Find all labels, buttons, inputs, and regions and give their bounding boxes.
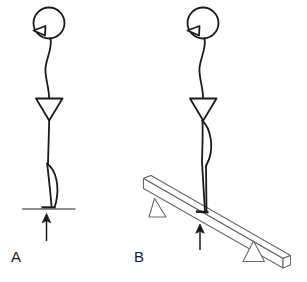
panel-a-figure	[22, 8, 76, 242]
panel-label-a: A	[11, 249, 21, 264]
head-circle-b	[188, 8, 219, 39]
torso-triangle-b	[190, 99, 217, 121]
spine-curve-a	[45, 39, 50, 99]
calf-curve-b	[202, 121, 211, 167]
torso-triangle-a	[36, 99, 63, 121]
panel-label-b: B	[134, 249, 144, 264]
force-arrow-b	[196, 224, 204, 250]
beam-front-face	[144, 179, 284, 269]
beam-group-b	[144, 176, 291, 269]
force-arrow-a	[42, 214, 50, 242]
head-circle-a	[34, 8, 65, 39]
shin-line-b	[202, 121, 205, 212]
figure-drawing	[0, 0, 307, 282]
ankle-line-b	[206, 166, 207, 212]
foot-line-b	[196, 212, 209, 213]
leg-upper-a	[48, 121, 49, 164]
support-triangle-left	[149, 199, 166, 218]
figure-container: A B	[0, 0, 307, 282]
shin-line-a	[47, 164, 51, 207]
spine-curve-b	[199, 39, 204, 99]
panel-b-figure	[144, 8, 291, 269]
